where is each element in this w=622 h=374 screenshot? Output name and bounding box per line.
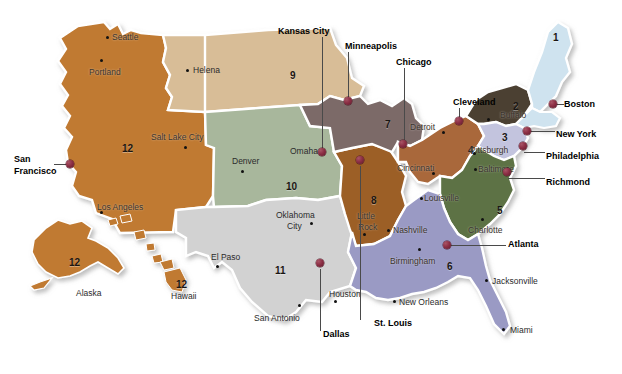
district-number-10: 10 (286, 182, 297, 192)
city-label-birmingham: Birmingham (390, 257, 435, 266)
city-dot-oklahoma (310, 222, 313, 225)
city-dot-salt-lake-city (184, 146, 187, 149)
city-label-cincinnati: Cincinnati (397, 164, 434, 173)
leader-line-philadelphia (524, 152, 545, 153)
city-dot-birmingham (418, 248, 421, 251)
reserve-bank-pin-philadelphia (519, 142, 527, 150)
us-map-graphic (0, 0, 622, 374)
city-label-nashville: Nashville (393, 226, 428, 235)
district-number-12: 12 (176, 280, 187, 290)
city-label-san-antonio: San Antonio (254, 314, 300, 323)
city-label-new-orleans: New Orleans (399, 298, 448, 307)
leader-line-kansas-city (322, 37, 323, 149)
reserve-bank-label-st-louis: St. Louis (374, 319, 412, 328)
city-label-miami: Miami (510, 326, 533, 335)
reserve-bank-label-san-francisco: SanFrancisco (14, 155, 57, 176)
city-dot-los-angeles (100, 211, 103, 214)
city-dot-new-orleans (393, 300, 396, 303)
reserve-bank-label-minneapolis: Minneapolis (345, 42, 397, 51)
inset-label-hawaii: Hawaii (171, 292, 197, 301)
reserve-bank-label-san-francisco-line1: San (14, 155, 57, 164)
city-dot-charlotte (481, 218, 484, 221)
reserve-bank-label-kansas-city: Kansas City (278, 27, 330, 36)
city-dot-houston (334, 300, 337, 303)
city-label-salt-lake-city: Salt Lake City (151, 133, 203, 142)
reserve-bank-pin-chicago (399, 140, 407, 148)
city-dot-denver (241, 170, 244, 173)
city-label-detroit: Detroit (410, 123, 435, 132)
federal-reserve-districts-map: 1234567891011121212 SeattlePortlandHelen… (0, 0, 622, 374)
city-dot-detroit (442, 131, 445, 134)
city-dot-baltimore (474, 168, 477, 171)
city-dot-san-antonio (298, 304, 301, 307)
city-dot-louisville (420, 197, 423, 200)
city-dot-helena (186, 69, 189, 72)
reserve-bank-pin-cleveland (455, 117, 463, 125)
district-number-11: 11 (275, 266, 286, 276)
reserve-bank-label-dallas: Dallas (323, 330, 350, 339)
city-dot-miami (502, 328, 505, 331)
city-label-seattle: Seattle (112, 33, 138, 42)
city-dot-cincinnati (432, 172, 435, 175)
inset-label-alaska: Alaska (76, 289, 102, 298)
reserve-bank-pin-st-louis (356, 156, 364, 164)
district-number-9: 9 (290, 71, 296, 81)
reserve-bank-label-cleveland: Cleveland (453, 98, 496, 107)
leader-line-minneapolis (348, 52, 349, 98)
city-dot-buffalo (487, 118, 490, 121)
reserve-bank-label-atlanta: Atlanta (508, 240, 539, 249)
city-label-city: City (287, 222, 302, 231)
district-number-1: 1 (553, 33, 559, 43)
district-number-5: 5 (497, 206, 503, 216)
leader-line-richmond (508, 178, 545, 179)
city-label-omaha: Omaha (290, 147, 318, 156)
reserve-bank-pin-new-york (523, 127, 531, 135)
city-dot-jacksonville (485, 279, 488, 282)
reserve-bank-pin-dallas (316, 259, 324, 267)
leader-line-chicago (404, 68, 405, 140)
leader-line-dallas (320, 269, 321, 331)
district-number-6: 6 (447, 262, 453, 272)
city-dot-nashville (387, 229, 390, 232)
city-label-houston: Houston (329, 290, 361, 299)
city-label-el-paso: El Paso (211, 253, 240, 262)
city-dot-seattle (106, 36, 109, 39)
reserve-bank-pin-boston (549, 100, 557, 108)
city-label-portland: Portland (89, 68, 121, 77)
city-label-los-angeles: Los Angeles (97, 203, 143, 212)
city-label-charlotte: Charlotte (468, 226, 503, 235)
reserve-bank-label-new-york: New York (556, 130, 596, 139)
leader-line-atlanta (450, 245, 506, 246)
reserve-bank-pin-atlanta (443, 241, 451, 249)
city-dot-el-paso (216, 265, 219, 268)
city-label-jacksonville: Jacksonville (492, 277, 538, 286)
reserve-bank-pin-kansas-city (318, 148, 326, 156)
district-12-aleutians (30, 278, 52, 290)
reserve-bank-pin-san-francisco (66, 160, 74, 168)
district-number-12: 12 (122, 144, 133, 154)
district-number-12: 12 (69, 258, 80, 268)
leader-line-new-york (527, 131, 555, 132)
city-label-buffalo: Buffalo (500, 111, 526, 120)
reserve-bank-label-chicago: Chicago (396, 58, 432, 67)
reserve-bank-label-richmond: Richmond (546, 178, 590, 187)
leader-line-st-louis (360, 166, 361, 320)
city-label-helena: Helena (193, 66, 220, 75)
reserve-bank-pin-minneapolis (344, 97, 352, 105)
district-11-region (176, 196, 356, 320)
reserve-bank-label-philadelphia: Philadelphia (546, 152, 599, 161)
district-number-8: 8 (371, 196, 377, 206)
reserve-bank-label-boston: Boston (564, 100, 595, 109)
reserve-bank-pin-richmond (503, 168, 511, 176)
city-label-oklahoma: Oklahoma (276, 211, 315, 220)
district-12-alaska (32, 220, 124, 278)
city-dot-pittsburgh (473, 152, 476, 155)
district-number-7: 7 (385, 120, 391, 130)
district-number-3: 3 (502, 133, 508, 143)
reserve-bank-label-san-francisco-line2: Francisco (14, 167, 57, 176)
city-label-denver: Denver (232, 157, 259, 166)
city-dot-portland (100, 59, 103, 62)
city-label-louisville: Louisville (424, 194, 459, 203)
city-dot-little (363, 233, 366, 236)
